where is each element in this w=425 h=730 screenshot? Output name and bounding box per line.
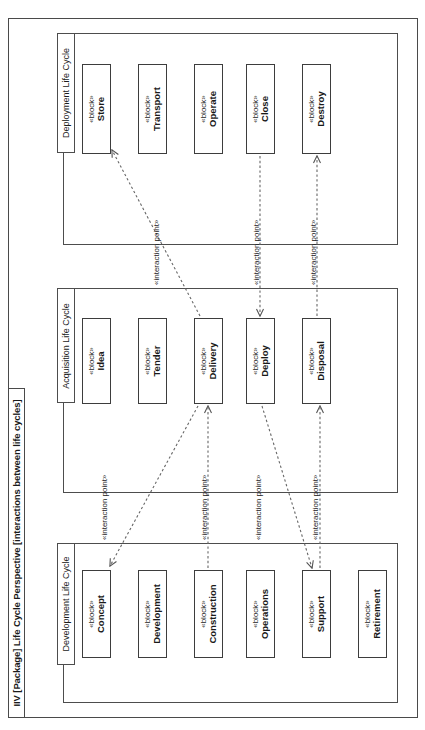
connector-label-construction-to-delivery: «interaction point» xyxy=(200,475,209,540)
connector-label-delivery-to-concept: «interaction point» xyxy=(100,475,109,540)
diagram-canvas: IIV [Package] Life Cycle Perspective [in… xyxy=(0,0,425,730)
connector-label-support-to-disposal: «interaction point» xyxy=(311,475,320,540)
connector-label-deploy-to-support: «interaction point» xyxy=(254,475,263,540)
connector-delivery-to-concept xyxy=(110,406,198,566)
connector-layer xyxy=(0,0,425,730)
connector-label-delivery-to-store: «interaction point» xyxy=(152,220,161,285)
connector-label-close-to-deploy: «interaction point» xyxy=(252,220,261,285)
connector-deploy-to-support xyxy=(262,406,312,568)
connector-label-disposal-to-destroy: «interaction point» xyxy=(309,220,318,285)
